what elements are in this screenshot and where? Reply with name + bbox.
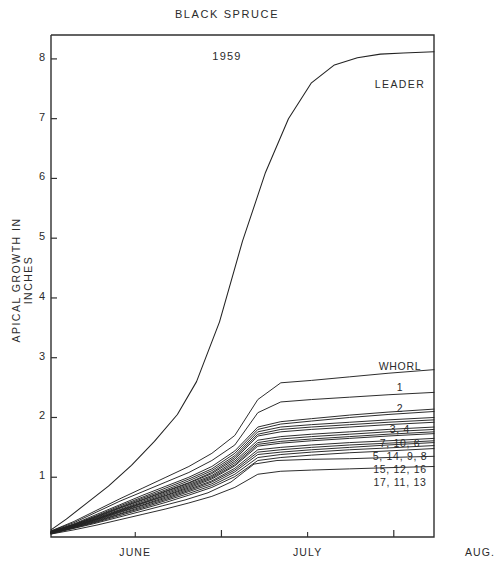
- legend-entry-2: 2: [345, 402, 455, 414]
- legend-entry-4: 7, 10, 6: [345, 437, 455, 449]
- legend-entry-3: 3, 4: [345, 423, 455, 435]
- legend-entry-6: 15, 12, 16: [345, 463, 455, 475]
- y-tick-label-2: 2: [23, 409, 45, 421]
- legend-entry-5: 5, 14, 9, 8: [345, 450, 455, 462]
- legend-leader-label: LEADER: [345, 78, 455, 90]
- x-tick-label-june: JUNE: [90, 546, 180, 558]
- x-tick-label-aug: AUG.: [435, 546, 498, 558]
- y-tick-label-7: 7: [23, 111, 45, 123]
- legend-entry-1: 1: [345, 381, 455, 393]
- legend-entry-7: 17, 11, 13: [345, 476, 455, 488]
- x-tick-label-july: JULY: [263, 546, 353, 558]
- y-tick-label-1: 1: [23, 469, 45, 481]
- y-tick-label-5: 5: [23, 230, 45, 242]
- y-tick-label-6: 6: [23, 170, 45, 182]
- legend-whorl-header: WHORL: [345, 360, 455, 372]
- y-tick-label-8: 8: [23, 51, 45, 63]
- y-tick-label-4: 4: [23, 290, 45, 302]
- y-tick-label-3: 3: [23, 350, 45, 362]
